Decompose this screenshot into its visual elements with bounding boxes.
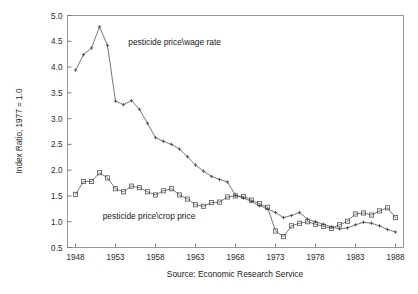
- x-tick-label: 1983: [346, 253, 365, 262]
- y-tick-label: 1.0: [51, 218, 63, 227]
- y-tick-label: 4.5: [51, 37, 63, 46]
- y-tick-label: 4.0: [51, 63, 63, 72]
- source-caption: Source: Economic Research Service: [167, 269, 304, 279]
- x-tick-label: 1953: [106, 253, 125, 262]
- x-tick-label: 1958: [146, 253, 165, 262]
- y-tick-label: 3.5: [51, 89, 63, 98]
- x-tick-label: 1978: [306, 253, 325, 262]
- y-tick-label: 3.0: [51, 115, 63, 124]
- x-tick-label: 1968: [226, 253, 245, 262]
- y-tick-label: 1.5: [51, 192, 63, 201]
- series-annotation-crop-price: pesticide price\crop price: [103, 211, 196, 221]
- y-tick-label: 2.5: [51, 140, 63, 149]
- y-tick-label: 2.0: [51, 166, 63, 175]
- x-tick-label: 1963: [186, 253, 205, 262]
- x-tick-label: 1948: [66, 253, 85, 262]
- y-tick-label: 5.0: [51, 12, 63, 21]
- chart-canvas: 0.51.01.52.02.53.03.54.04.55.0 194819531…: [0, 0, 418, 294]
- chart-figure: 0.51.01.52.02.53.03.54.04.55.0 194819531…: [0, 0, 418, 294]
- y-axis-title: Index Ratio, 1977 = 1.0: [15, 88, 24, 173]
- series-annotation-wage-rate: pesticide price\wage rate: [128, 37, 221, 47]
- x-tick-label: 1988: [386, 253, 405, 262]
- y-tick-label: 0.5: [51, 244, 63, 253]
- x-tick-label: 1973: [266, 253, 285, 262]
